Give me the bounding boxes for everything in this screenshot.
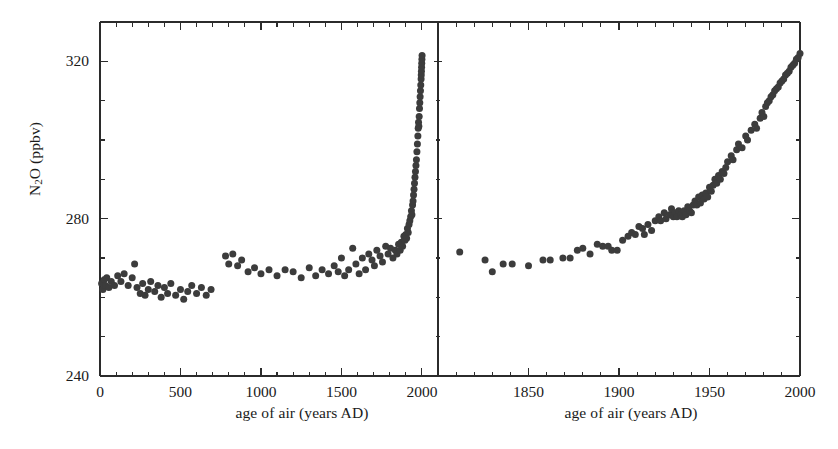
x-tick-label-p0-2000: 2000 [406,383,437,401]
y-tick-label-240: 240 [66,367,89,385]
data-points-left-panel [98,52,425,303]
data-point [644,221,651,228]
n2o-scatter-figure: N2O (ppbv) age of air (years AD) age of … [0,0,838,449]
data-point [331,262,338,269]
data-point [125,282,132,289]
data-point [274,272,281,279]
data-point [145,286,152,293]
data-point [161,284,168,291]
data-point [282,266,289,273]
data-point [489,268,496,275]
data-point [208,286,215,293]
x-tick-label-p1-1900: 1900 [604,383,635,401]
x-tick-label-p0-0: 0 [96,383,104,401]
data-point [164,290,171,297]
data-point [266,266,273,273]
x-axis-title-right: age of air (years AD) [500,404,762,422]
data-point [717,176,724,183]
data-point [356,270,363,277]
data-point [559,255,566,262]
data-point [373,247,380,254]
data-point [632,231,639,238]
data-point [482,256,489,263]
y-tick-label-280: 280 [66,210,89,228]
data-point [416,113,423,120]
data-point [245,268,252,275]
data-point [405,229,412,236]
data-point [744,137,751,144]
data-point [142,292,149,299]
data-point [341,272,348,279]
data-point [730,156,737,163]
data-point [134,284,141,291]
data-point [720,170,727,177]
data-point [172,292,179,299]
data-point [251,264,258,271]
data-point [193,290,200,297]
data-point [177,286,184,293]
data-point [290,268,297,275]
data-point [352,260,359,267]
data-point [151,288,158,295]
data-point [648,227,655,234]
data-point [567,255,574,262]
plot-canvas [0,0,838,449]
data-point [131,260,138,267]
x-tick-label-p1-2000: 2000 [785,383,816,401]
data-point [688,209,695,216]
data-point [413,156,420,163]
data-point [641,231,648,238]
data-point [234,262,241,269]
data-point [547,256,554,263]
data-point [403,235,410,242]
x-tick-label-p0-1000: 1000 [245,383,276,401]
data-point [198,284,205,291]
data-point [147,278,154,285]
data-point [415,123,422,130]
data-point [362,266,369,273]
data-point [203,292,210,299]
data-point [419,52,426,59]
data-point [722,164,729,171]
data-point [509,260,516,267]
data-point [117,278,124,285]
data-point [456,249,463,256]
data-point [167,280,174,287]
data-point [739,144,746,151]
data-point [298,274,305,281]
data-point [154,282,161,289]
data-point [225,260,232,267]
y-axis-title: N2O (ppbv) [26,84,44,234]
data-point [708,188,715,195]
data-point [325,270,332,277]
data-point [365,251,372,258]
data-point [222,253,229,260]
data-point [111,282,118,289]
data-point [257,270,264,277]
data-point [359,255,366,262]
data-point [760,113,767,120]
data-point [414,133,421,140]
data-point [188,282,195,289]
x-axis-title-left: age of air (years AD) [172,404,432,422]
data-point [349,245,356,252]
data-point [319,266,326,273]
data-point [121,270,128,277]
data-point [414,140,421,147]
data-point [158,294,165,301]
data-point [114,272,121,279]
data-point [238,256,245,263]
y-tick-label-320: 320 [66,52,89,70]
data-point [587,251,594,258]
data-point [525,262,532,269]
data-point [408,211,415,218]
data-point [312,272,319,279]
data-point [229,251,236,258]
data-point [180,296,187,303]
data-point [184,288,191,295]
data-point [371,262,378,269]
data-point [753,125,760,132]
x-tick-label-p0-1500: 1500 [326,383,357,401]
data-point [704,194,711,201]
x-tick-label-p0-500: 500 [169,383,192,401]
